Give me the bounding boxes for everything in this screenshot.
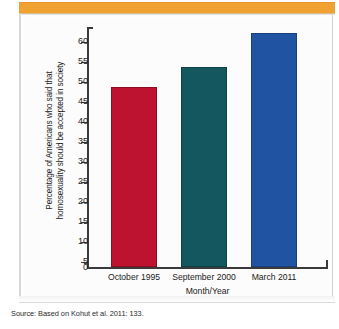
bar-september-2000[interactable] <box>181 67 227 267</box>
x-axis-line <box>87 267 328 269</box>
source-note: Source: Based on Kohut et al. 2011: 133. <box>11 309 144 318</box>
source-divider <box>19 302 335 303</box>
x-axis-title: Month/Year <box>87 286 328 296</box>
figure-page: 60 55 50 45 40 <box>0 0 339 329</box>
y-axis-top-cap <box>87 27 93 29</box>
figure-card: 60 55 50 45 40 <box>19 15 333 302</box>
y-axis-title: Percentage of Americans who said that ho… <box>45 36 66 246</box>
bar-october-1995[interactable] <box>111 87 157 267</box>
source-strip: Source: Based on Kohut et al. 2011: 133. <box>0 302 339 329</box>
page-left-margin <box>0 0 19 329</box>
y-tick-label: 0 <box>42 263 88 272</box>
x-axis-end-tick <box>326 260 328 268</box>
y-axis-tick-0: 0 <box>25 268 88 269</box>
y-axis-title-line-2: homosexuality should be accepted in soci… <box>55 36 66 246</box>
figure-card-inner: 60 55 50 45 40 <box>25 18 329 300</box>
x-tick-label-march-2011: March 2011 <box>222 272 326 282</box>
bar-march-2011[interactable] <box>251 33 297 267</box>
y-axis-title-line-1: Percentage of Americans who said that <box>45 36 56 246</box>
bar-chart-plot: 60 55 50 45 40 <box>25 18 339 305</box>
